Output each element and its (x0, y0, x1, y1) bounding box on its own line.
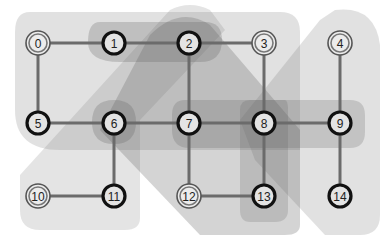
node-13: 13 (253, 185, 275, 207)
node-label: 10 (31, 190, 45, 204)
node-label: 12 (182, 190, 196, 204)
node-1: 1 (103, 32, 125, 54)
node-3: 3 (252, 31, 276, 55)
node-label: 3 (261, 37, 268, 51)
node-label: 5 (35, 117, 42, 131)
hypergraph-diagram: 01234567891011121314 (0, 0, 389, 239)
node-8: 8 (253, 112, 275, 134)
node-9: 9 (329, 112, 351, 134)
node-label: 9 (337, 117, 344, 131)
node-5: 5 (27, 112, 49, 134)
node-label: 13 (257, 190, 271, 204)
node-0: 0 (26, 31, 50, 55)
node-14: 14 (329, 185, 351, 207)
node-10: 10 (26, 184, 50, 208)
node-6: 6 (103, 112, 125, 134)
node-12: 12 (177, 184, 201, 208)
node-label: 0 (35, 37, 42, 51)
node-7: 7 (178, 112, 200, 134)
node-label: 14 (333, 190, 347, 204)
node-label: 6 (111, 117, 118, 131)
node-4: 4 (328, 31, 352, 55)
node-label: 11 (108, 190, 121, 204)
node-label: 7 (186, 117, 193, 131)
node-label: 1 (111, 37, 118, 51)
node-label: 2 (186, 37, 193, 51)
node-11: 11 (103, 185, 125, 207)
node-label: 8 (261, 117, 268, 131)
node-2: 2 (178, 32, 200, 54)
node-label: 4 (337, 37, 344, 51)
